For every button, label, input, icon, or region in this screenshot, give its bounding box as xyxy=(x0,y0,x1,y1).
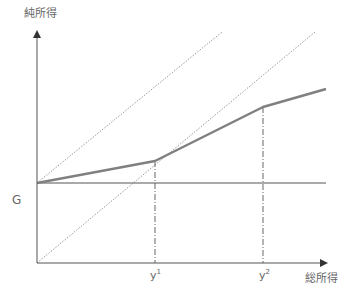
x-axis-label: 総所得 xyxy=(305,269,338,285)
net-income-line xyxy=(37,89,326,183)
income-diagram xyxy=(0,0,361,299)
dotted-line-origin xyxy=(37,32,315,263)
g-label: G xyxy=(12,193,21,207)
y1-label: y1 xyxy=(150,268,161,282)
y1-sup: 1 xyxy=(157,268,161,276)
y2-sup: 2 xyxy=(266,268,270,276)
y-axis-label: 純所得 xyxy=(24,4,57,20)
dotted-line-g xyxy=(37,32,222,183)
y2-label: y2 xyxy=(259,268,270,282)
